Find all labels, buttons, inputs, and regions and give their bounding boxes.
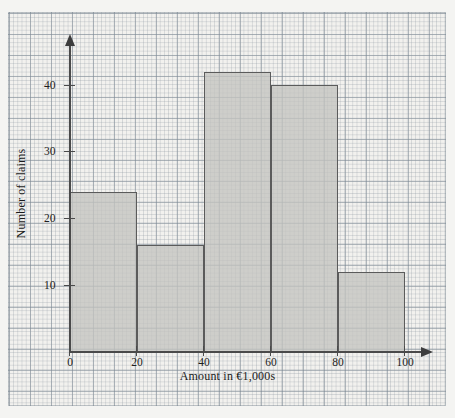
x-tick-label-80: 80 [322, 356, 354, 368]
x-tick-label-60: 60 [255, 356, 287, 368]
histogram-bar-80-100 [338, 272, 405, 352]
y-tick-mark-40 [64, 85, 75, 86]
y-tick-label-40: 40 [44, 79, 56, 91]
x-tick-mark-100 [404, 346, 405, 356]
y-tick-mark-30 [64, 151, 75, 152]
y-tick-label-10: 10 [44, 279, 56, 291]
x-tick-mark-80 [337, 346, 338, 356]
plot-area: 40 30 20 10 0 20 40 60 80 100 Amount in … [0, 0, 455, 418]
y-tick-label-30: 30 [44, 145, 56, 157]
x-tick-label-100: 100 [389, 356, 421, 368]
arrow-right-icon [421, 347, 433, 357]
x-tick-mark-40 [203, 346, 204, 356]
x-tick-label-20: 20 [121, 356, 153, 368]
histogram-bar-40-60 [204, 72, 271, 352]
x-tick-label-40: 40 [188, 356, 220, 368]
x-tick-mark-0 [69, 346, 70, 356]
y-tick-label-20: 20 [44, 212, 56, 224]
x-tick-mark-20 [136, 346, 137, 356]
x-axis-line [69, 351, 421, 353]
arrow-up-icon [65, 34, 75, 46]
histogram-figure: 40 30 20 10 0 20 40 60 80 100 Amount in … [0, 0, 455, 418]
histogram-bar-20-40 [137, 245, 204, 352]
histogram-bar-60-80 [271, 85, 338, 352]
y-axis-title: Number of claims [14, 129, 29, 259]
x-tick-label-0: 0 [54, 356, 86, 368]
y-tick-mark-20 [64, 218, 75, 219]
y-axis-line [69, 46, 71, 352]
y-tick-mark-10 [64, 285, 75, 286]
x-axis-title: Amount in €1,000s [0, 369, 455, 384]
histogram-bar-0-20 [70, 192, 137, 352]
x-tick-mark-60 [270, 346, 271, 356]
